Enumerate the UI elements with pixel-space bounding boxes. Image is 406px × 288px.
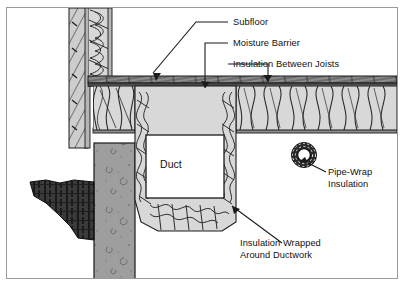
label-insulation-between-joists: Insulation Between Joists [233,59,339,71]
label-pipe-wrap-line2: Insulation [328,179,368,191]
duct-wrap-insulation [135,86,236,231]
soil-grade [30,180,94,240]
diagram-canvas: Subfloor Moisture Barrier Insulation Bet… [0,0,406,288]
label-insulation-wrapped-line1: Insulation Wrapped [240,238,321,250]
exterior-wall-siding [69,8,90,148]
label-pipe-wrap-line1: Pipe-Wrap [328,167,372,179]
label-subfloor: Subfloor [233,17,268,29]
label-insulation-wrapped-line2: Around Ductwork [240,250,312,262]
diagram-artwork [0,0,406,288]
joist-bay-insulation [236,86,397,130]
concrete-foundation-wall [94,143,135,279]
pipe-wrap [292,143,317,168]
label-duct: Duct [160,159,182,171]
label-moisture-barrier: Moisture Barrier [233,38,300,50]
